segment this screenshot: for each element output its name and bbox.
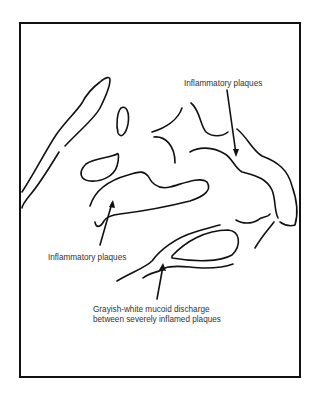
plaque-outline (117, 107, 129, 135)
plaque-illustration (0, 0, 318, 401)
plaque-outline (190, 148, 278, 218)
plaque-outline (255, 222, 274, 248)
arrowhead-icon (233, 149, 239, 157)
plaque-outline (191, 103, 228, 136)
plaque-outline (81, 154, 118, 181)
label-inflammatory-plaques-top: Inflammatory plaques (184, 79, 262, 89)
label-line-2: between severely inflamed plaques (93, 315, 221, 325)
plaque-outline (22, 78, 110, 192)
plaque-outline (237, 129, 297, 226)
arrowhead-icon (159, 263, 166, 271)
plaque-outline (143, 264, 233, 278)
pointer-arrow-line (227, 90, 236, 154)
plaque-outline (236, 214, 270, 223)
label-mucoid-discharge: Grayish-white mucoid discharge between s… (93, 305, 221, 325)
label-line-1: Grayish-white mucoid discharge (93, 305, 221, 315)
plaque-outline (154, 137, 175, 163)
label-inflammatory-plaques-left: Inflammatory plaques (48, 253, 126, 263)
plaque-outline (152, 108, 182, 132)
plaque-outline (172, 230, 238, 261)
arrowhead-icon (109, 200, 115, 208)
